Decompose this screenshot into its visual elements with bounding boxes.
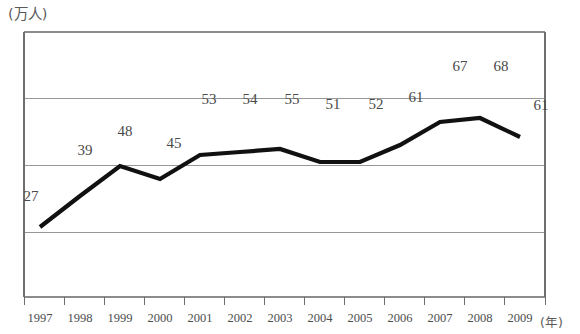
gridlines xyxy=(24,32,545,297)
x-axis-ticks xyxy=(24,297,545,305)
data-series-line xyxy=(40,118,520,227)
series-polyline xyxy=(40,118,520,227)
line-chart-figure: (万人) (年) 1997199819992000200120022003200… xyxy=(0,0,580,334)
plot-frame xyxy=(24,32,545,297)
plot-area xyxy=(0,0,580,334)
